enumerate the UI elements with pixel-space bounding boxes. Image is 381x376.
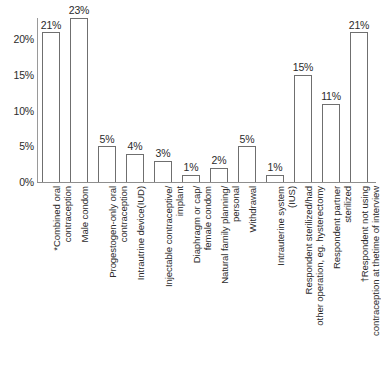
bar-value-label: 3%	[156, 148, 171, 159]
bar-slot: 15%	[289, 18, 317, 182]
bars-layer: 21% 23% 5% 4% 3% 1%	[37, 18, 376, 182]
category-slot: *Combined oral contraception	[37, 186, 65, 376]
bar-slot: 1%	[177, 18, 205, 182]
bar	[70, 18, 88, 182]
bar-value-label: 1%	[268, 162, 283, 173]
bar-value-label: 1%	[184, 162, 199, 173]
category-label-line: *Combined oral	[51, 186, 62, 251]
bar-value-label: 2%	[212, 155, 227, 166]
category-label-line: Intrautrine device(IUD)	[135, 186, 146, 280]
bar	[98, 146, 116, 182]
category-slot: Withdrawal	[233, 186, 261, 376]
category-label-line: Injectable contraceptive/	[163, 186, 174, 287]
bar-slot: 5%	[93, 18, 121, 182]
y-tick-label: 5%	[19, 140, 34, 152]
bar	[350, 32, 368, 182]
category-slot: Intrautrine device(IUD)	[121, 186, 149, 376]
bar	[210, 168, 228, 182]
category-slot: Respondent sterilized/had other operatio…	[289, 186, 317, 376]
category-label: Intrautrine device(IUD)	[135, 186, 146, 280]
plot-area: 21% 23% 5% 4% 3% 1%	[37, 18, 376, 182]
category-slot: Injectable contraceptive/ implant	[149, 186, 177, 376]
bar-value-label: 11%	[321, 91, 341, 102]
bar-value-label: 15%	[293, 62, 313, 73]
category-label-line: contraception at thetime of interview	[370, 186, 381, 336]
bar-slot: 21%	[345, 18, 373, 182]
category-label-line: Natural family planning/	[219, 186, 230, 284]
category-slot: Natural family planning/ personal	[205, 186, 233, 376]
category-label-line: Withdrawal	[247, 186, 258, 232]
category-label-line: Respondent partner	[331, 186, 342, 269]
bar-value-label: 21%	[41, 20, 61, 31]
bar	[42, 32, 60, 182]
bar	[266, 175, 284, 182]
bar-slot: 21%	[37, 18, 65, 182]
bar-value-label: 5%	[100, 134, 115, 145]
category-label: †Respondent not using contraception at t…	[359, 186, 381, 336]
bar-slot: 4%	[121, 18, 149, 182]
category-label-line: Respondent sterilized/had	[303, 186, 314, 326]
bar	[322, 104, 340, 183]
bar-slot: 5%	[233, 18, 261, 182]
category-label-line: Male condom	[79, 186, 90, 243]
category-label: Withdrawal	[247, 186, 258, 232]
bar-slot: 2%	[205, 18, 233, 182]
bar-value-label: 4%	[128, 141, 143, 152]
category-label-line: Diaphragm or cap/	[191, 186, 202, 263]
y-tick-label: 15%	[14, 69, 34, 81]
bar	[154, 161, 172, 182]
category-slot: Intrauterine system (IUS)	[261, 186, 289, 376]
y-tick-label: 10%	[14, 105, 34, 117]
bar-value-label: 5%	[240, 134, 255, 145]
category-slot: Progestogen-only oral contraception	[93, 186, 121, 376]
category-slot: Respondent partner sterilized	[317, 186, 345, 376]
bar	[182, 175, 200, 182]
bar-slot: 3%	[149, 18, 177, 182]
category-slot: Male condom	[65, 186, 93, 376]
bar	[238, 146, 256, 182]
category-label-line: †Respondent not using	[359, 186, 370, 336]
category-slot: Diaphragm or cap/ female condom	[177, 186, 205, 376]
bar-value-label: 21%	[349, 20, 369, 31]
category-label-line: Intrauterine system	[275, 186, 286, 266]
y-tick-label: 20%	[14, 33, 34, 45]
category-slot: †Respondent not using contraception at t…	[345, 186, 373, 376]
bar	[126, 154, 144, 183]
bar-value-label: 23%	[69, 5, 89, 16]
bar-slot: 23%	[65, 18, 93, 182]
category-label: Male condom	[79, 186, 90, 243]
y-axis-tick-labels: 0% 5% 10% 15% 20%	[0, 0, 34, 376]
x-axis-category-labels: *Combined oral contraception Male condom…	[37, 186, 376, 376]
y-tick-label: 0%	[19, 176, 34, 188]
x-axis-baseline	[37, 182, 376, 183]
category-label-line: Progestogen-only oral	[107, 186, 118, 278]
bar-slot: 1%	[261, 18, 289, 182]
bar	[294, 75, 312, 182]
bar-slot: 11%	[317, 18, 345, 182]
